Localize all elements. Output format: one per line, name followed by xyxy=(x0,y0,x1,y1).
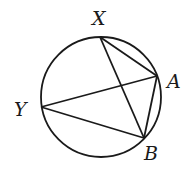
segment-yb xyxy=(41,107,144,138)
segment-ab xyxy=(144,76,157,138)
label-b: B xyxy=(143,142,158,164)
label-y: Y xyxy=(14,98,29,120)
label-x: X xyxy=(90,7,107,29)
circle xyxy=(41,37,161,157)
geometry-diagram: X A Y B xyxy=(0,0,191,176)
label-a: A xyxy=(165,70,181,92)
segment-ya xyxy=(41,76,157,107)
